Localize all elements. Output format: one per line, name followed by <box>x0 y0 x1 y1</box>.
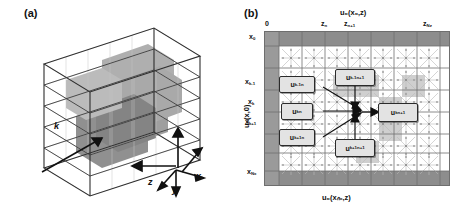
finite-difference-grid: uk-1n ukn uk+1n uk-1n+1 ukn+1 uk+1n+1 <box>264 31 450 186</box>
stencil-node-u-k-n-plus-1[interactable]: ukn+1 <box>378 103 418 122</box>
panel-b: (b) u₀(x₀,z) 0 zn zn+1 zNz x0 xk-1 xk xk… <box>234 0 468 216</box>
cube-svg <box>36 20 208 198</box>
axis-label-y: y <box>172 186 177 195</box>
tick-z-0: 0 <box>265 20 269 27</box>
stencil-node-u-k-minus-1-n-plus-1[interactable]: uk-1n+1 <box>335 69 375 86</box>
voxel-cube-graphic: k x y z <box>36 20 208 198</box>
top-axis-label: u₀(x₀,z) <box>340 9 366 17</box>
stencil-node-u-k-n[interactable]: ukn <box>281 103 313 120</box>
stencil-node-u-k-plus-1-n-plus-1[interactable]: uk+1n+1 <box>335 139 375 157</box>
stencil-node-u-k-plus-1-n[interactable]: uk+1n <box>279 129 315 146</box>
axis-label-k: k <box>54 122 59 131</box>
stencil-node-u-k-minus-1-n[interactable]: uk-1n <box>279 76 315 93</box>
bottom-axis-label: u₀(xₙₓ,z) <box>322 194 351 202</box>
tick-x-k-minus-1: xk-1 <box>245 78 255 85</box>
tick-x-0: x0 <box>249 33 255 40</box>
panel-a: (a) <box>0 0 234 216</box>
panel-b-tag: (b) <box>244 8 258 19</box>
tick-z-n-plus-1: zn+1 <box>344 20 355 27</box>
tick-z-n: zn <box>321 20 327 27</box>
axis-label-x: x <box>196 172 201 181</box>
tick-x-nx: xNx <box>247 168 256 175</box>
tick-z-nz: zNz <box>423 20 432 27</box>
axis-label-z: z <box>148 178 153 187</box>
figure-root: (a) <box>0 0 468 216</box>
left-axis-label: u₀(x,0) <box>243 105 251 128</box>
panel-a-tag: (a) <box>24 8 37 19</box>
